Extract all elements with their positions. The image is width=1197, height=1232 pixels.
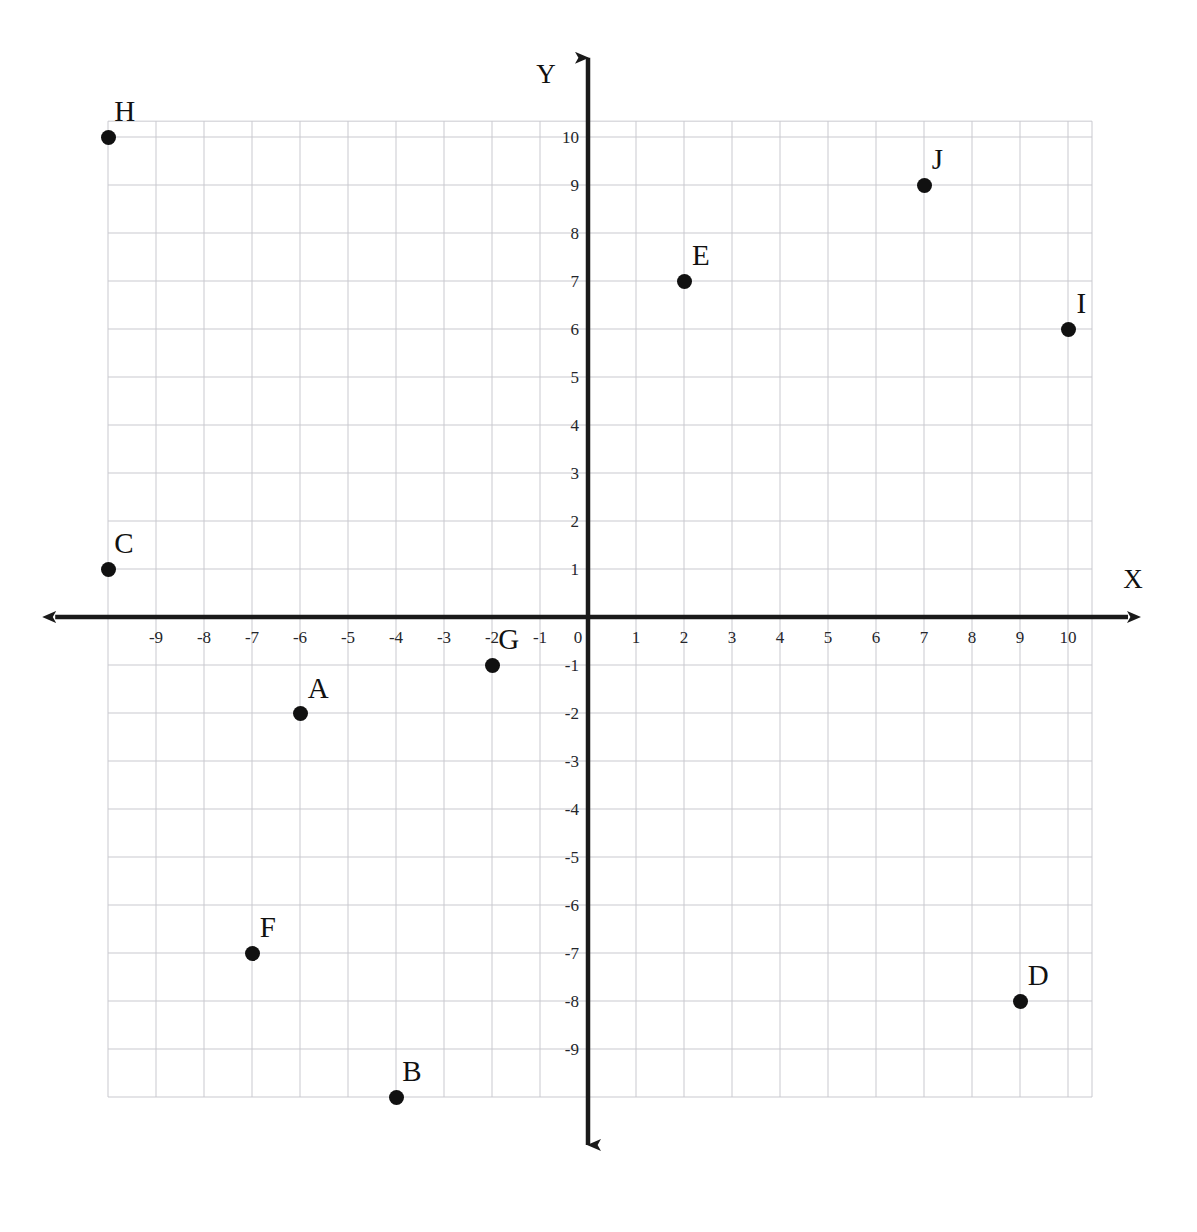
y-tick-label: 2 (571, 513, 580, 530)
x-tick-label: 4 (776, 629, 785, 646)
point-label-f: F (260, 912, 276, 941)
x-tick-label: 10 (1060, 629, 1077, 646)
point-label-c: C (114, 528, 133, 557)
y-tick-label: 9 (571, 177, 580, 194)
data-point-c (101, 562, 116, 577)
point-label-d: D (1028, 960, 1049, 989)
x-axis-label: X (1123, 566, 1143, 593)
point-label-j: J (932, 144, 943, 173)
y-axis-label: Y (536, 60, 556, 87)
y-tick-label: 7 (571, 273, 580, 290)
x-tick-label: 1 (632, 629, 641, 646)
y-tick-label: 1 (571, 561, 580, 578)
x-tick-label: 8 (968, 629, 977, 646)
y-tick-label: -3 (565, 753, 579, 770)
data-point-a (293, 706, 308, 721)
data-point-g (485, 658, 500, 673)
point-label-e: E (692, 240, 710, 269)
axis-lines (0, 0, 1197, 1232)
y-tick-label: -9 (565, 1041, 579, 1058)
x-tick-label: 0 (574, 629, 583, 646)
data-point-h (101, 130, 116, 145)
data-point-f (245, 946, 260, 961)
y-tick-label: -8 (565, 993, 579, 1010)
y-tick-label: -7 (565, 945, 579, 962)
point-label-i: I (1077, 288, 1087, 317)
x-tick-label: 2 (680, 629, 689, 646)
point-label-g: G (498, 624, 519, 653)
y-tick-label: -1 (565, 657, 579, 674)
y-tick-label: 8 (571, 225, 580, 242)
x-tick-label: 7 (920, 629, 929, 646)
y-tick-label: -6 (565, 897, 579, 914)
data-point-e (677, 274, 692, 289)
y-tick-label: -4 (565, 801, 579, 818)
point-label-h: H (114, 96, 135, 125)
x-tick-label: -9 (149, 629, 163, 646)
data-point-j (917, 178, 932, 193)
x-tick-label: 6 (872, 629, 881, 646)
y-tick-label: -2 (565, 705, 579, 722)
data-point-b (389, 1090, 404, 1105)
y-tick-label: 3 (571, 465, 580, 482)
coordinate-plane: -9-8-7-6-5-4-3-2-1012345678910 109876543… (0, 0, 1197, 1232)
y-tick-label: 6 (571, 321, 580, 338)
x-tick-label: 5 (824, 629, 833, 646)
x-tick-label: -6 (293, 629, 307, 646)
y-tick-label: 4 (571, 417, 580, 434)
y-tick-label: 10 (562, 129, 579, 146)
x-tick-label: -4 (389, 629, 403, 646)
y-tick-label: -5 (565, 849, 579, 866)
x-tick-label: -3 (437, 629, 451, 646)
point-label-b: B (402, 1056, 421, 1085)
x-tick-label: -5 (341, 629, 355, 646)
x-tick-label: -8 (197, 629, 211, 646)
x-tick-label: 9 (1016, 629, 1025, 646)
y-tick-label: 5 (571, 369, 580, 386)
x-tick-label: 3 (728, 629, 737, 646)
x-tick-label: -2 (485, 629, 499, 646)
x-tick-label: -1 (533, 629, 547, 646)
x-tick-label: -7 (245, 629, 259, 646)
data-point-d (1013, 994, 1028, 1009)
data-point-i (1061, 322, 1076, 337)
point-label-a: A (308, 674, 329, 703)
